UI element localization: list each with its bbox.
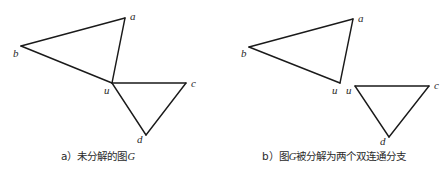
edge-d-u2 <box>355 86 389 137</box>
edge-u1-a <box>340 19 353 83</box>
vertex-label-d: d <box>380 135 386 147</box>
vertex-label-c: c <box>191 77 196 89</box>
vertex-label-a: a <box>130 10 136 22</box>
vertex-label-u2: u <box>346 84 352 96</box>
vertex-label-d: d <box>137 133 143 145</box>
edge-d-u <box>112 83 146 135</box>
vertex-label-u: u <box>104 84 110 96</box>
graph-decomposed: abuucd <box>241 12 439 147</box>
caption-fig-a-prefix: a）未分解的图 <box>61 150 127 162</box>
caption-fig-b-prefix: b）图 <box>262 150 289 162</box>
edge-u-a <box>112 18 125 83</box>
vertex-label-b: b <box>241 47 247 59</box>
edge-c-d <box>389 86 429 137</box>
vertex-label-a: a <box>358 12 364 24</box>
vertex-label-b: b <box>13 47 19 59</box>
vertex-label-u1: u <box>332 84 338 96</box>
caption-fig-a-var: G <box>127 151 135 162</box>
edge-b-u <box>21 46 112 83</box>
edge-c-d <box>146 83 186 135</box>
caption-fig-a: a）未分解的图G <box>61 148 135 163</box>
edge-b-u1 <box>249 47 340 83</box>
edge-a-b <box>21 18 125 46</box>
caption-fig-b-suffix: 被分解为两个双连通分支 <box>296 150 406 162</box>
caption-fig-b: b）图G被分解为两个双连通分支 <box>262 148 406 163</box>
edge-a-b <box>249 19 353 47</box>
graph-diagram: abucd abuucd <box>0 0 446 171</box>
vertex-label-c: c <box>434 79 439 91</box>
graph-undecomposed: abucd <box>13 10 196 145</box>
